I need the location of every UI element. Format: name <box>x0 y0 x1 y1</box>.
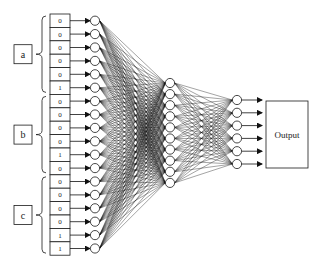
input-cell-value: 0 <box>58 71 62 79</box>
neural-network-diagram: abc 000001000010000011 Output <box>0 0 319 263</box>
input-cell-value: 0 <box>58 165 62 173</box>
group-brace <box>36 16 46 92</box>
hidden-node <box>165 156 174 165</box>
input-cell-value: 1 <box>58 232 62 240</box>
input-node <box>90 164 99 173</box>
input-node <box>90 123 99 132</box>
input-cell-value: 1 <box>58 84 62 92</box>
hidden-node <box>165 78 174 87</box>
network-svg: abc 000001000010000011 Output <box>0 0 319 263</box>
input-cell-value: 0 <box>58 191 62 199</box>
output-node <box>232 95 241 104</box>
input-cell-value: 0 <box>58 31 62 39</box>
input-node <box>90 110 99 119</box>
group-label: a <box>21 49 26 60</box>
input-node <box>90 150 99 159</box>
input-arrows <box>70 21 90 249</box>
output-node <box>232 134 241 143</box>
input-node <box>90 97 99 106</box>
input-cell-value: 0 <box>58 138 62 146</box>
input-node <box>90 190 99 199</box>
hidden-node <box>165 112 174 121</box>
input-node <box>90 43 99 52</box>
input-cell-value: 0 <box>58 205 62 213</box>
connection-edges <box>100 21 233 249</box>
output-node <box>232 108 241 117</box>
group-brace <box>36 177 46 253</box>
output-node <box>232 159 241 168</box>
input-cell-value: 0 <box>58 178 62 186</box>
input-cell-value: 0 <box>58 17 62 25</box>
input-node <box>90 56 99 65</box>
input-cell-value: 0 <box>58 218 62 226</box>
input-cells: 000001000010000011 <box>50 14 70 255</box>
input-node <box>90 70 99 79</box>
hidden-node <box>165 101 174 110</box>
input-node <box>90 231 99 240</box>
input-groups: abc <box>14 16 46 253</box>
input-node <box>90 29 99 38</box>
input-node <box>90 217 99 226</box>
input-node <box>90 83 99 92</box>
hidden-node <box>165 145 174 154</box>
input-cell-value: 0 <box>58 111 62 119</box>
output-node <box>232 147 241 156</box>
output-block: Output <box>266 101 308 168</box>
hidden-node <box>165 134 174 143</box>
input-node <box>90 177 99 186</box>
group-label: c <box>21 210 26 221</box>
hidden-node <box>165 123 174 132</box>
input-cell-value: 0 <box>58 44 62 52</box>
input-node <box>90 137 99 146</box>
group-label: b <box>21 129 26 140</box>
group-brace <box>36 96 46 172</box>
input-node <box>90 16 99 25</box>
input-cell-value: 0 <box>58 98 62 106</box>
input-node <box>90 244 99 253</box>
output-label: Output <box>274 130 300 140</box>
input-node <box>90 204 99 213</box>
hidden-node <box>165 178 174 187</box>
hidden-node <box>165 167 174 176</box>
output-node <box>232 121 241 130</box>
input-cell-value: 1 <box>58 245 62 253</box>
input-cell-value: 0 <box>58 124 62 132</box>
hidden-node <box>165 90 174 99</box>
input-cell-value: 0 <box>58 57 62 65</box>
input-cell-value: 1 <box>58 151 62 159</box>
